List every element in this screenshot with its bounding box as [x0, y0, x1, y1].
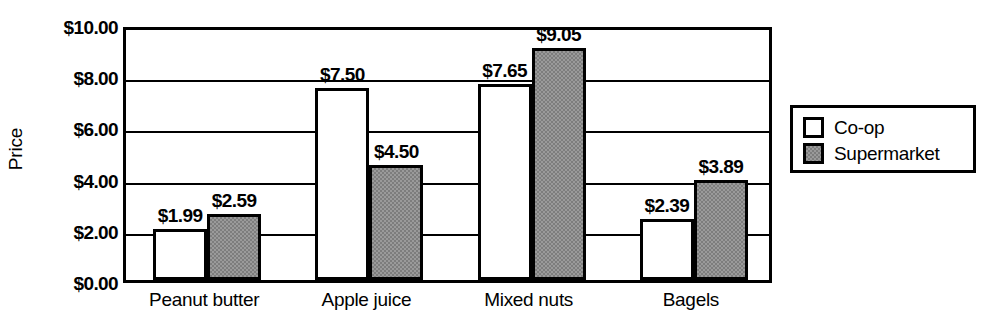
- bar-value-label: $3.89: [682, 157, 760, 176]
- bar[interactable]: [478, 84, 532, 280]
- bar-group: $7.65$9.05: [451, 30, 613, 280]
- legend: Co-op Supermarket: [790, 105, 976, 173]
- bar-group: $1.99$2.59: [126, 30, 288, 280]
- y-axis-tick-label: $6.00: [26, 120, 118, 139]
- plot-area: $1.99$2.59$7.50$4.50$7.65$9.05$2.39$3.89: [123, 27, 772, 283]
- x-axis-category-labels: Peanut butterApple juiceMixed nutsBagels: [123, 289, 772, 321]
- legend-label-supermarket: Supermarket: [834, 144, 939, 163]
- x-axis-category-label: Apple juice: [285, 289, 447, 312]
- bar[interactable]: [153, 229, 207, 280]
- legend-swatch-coop: [803, 117, 824, 138]
- bar[interactable]: [640, 219, 694, 280]
- bar-group: $2.39$3.89: [613, 30, 775, 280]
- bar[interactable]: [315, 88, 369, 280]
- y-axis-tick-label: $2.00: [26, 223, 118, 242]
- bar[interactable]: [207, 214, 261, 280]
- x-axis-category-label: Bagels: [610, 289, 772, 312]
- bar-chart: Price $0.00$2.00$4.00$6.00$8.00$10.00 $1…: [0, 0, 988, 329]
- legend-label-coop: Co-op: [834, 118, 884, 137]
- bar[interactable]: [694, 180, 748, 280]
- y-axis-title: Price: [5, 104, 27, 194]
- y-axis-tick-label: $0.00: [26, 274, 118, 293]
- bar-group: $7.50$4.50: [288, 30, 450, 280]
- y-axis-tick-label: $10.00: [26, 18, 118, 37]
- x-axis-category-label: Mixed nuts: [448, 289, 610, 312]
- bar-value-label: $7.50: [303, 65, 381, 84]
- legend-swatch-supermarket: [803, 143, 824, 164]
- legend-entry-supermarket[interactable]: Supermarket: [803, 140, 973, 166]
- bar-value-label: $9.05: [520, 25, 598, 44]
- legend-entry-coop[interactable]: Co-op: [803, 114, 973, 140]
- plot-inner: $1.99$2.59$7.50$4.50$7.65$9.05$2.39$3.89: [126, 30, 769, 280]
- x-axis-category-label: Peanut butter: [123, 289, 285, 312]
- bar[interactable]: [369, 165, 423, 280]
- bar[interactable]: [532, 48, 586, 280]
- y-axis-tick-label: $4.00: [26, 172, 118, 191]
- bar-value-label: $4.50: [357, 142, 435, 161]
- y-axis-tick-labels: $0.00$2.00$4.00$6.00$8.00$10.00: [26, 0, 118, 329]
- y-axis-tick-label: $8.00: [26, 69, 118, 88]
- bar-value-label: $2.59: [195, 191, 273, 210]
